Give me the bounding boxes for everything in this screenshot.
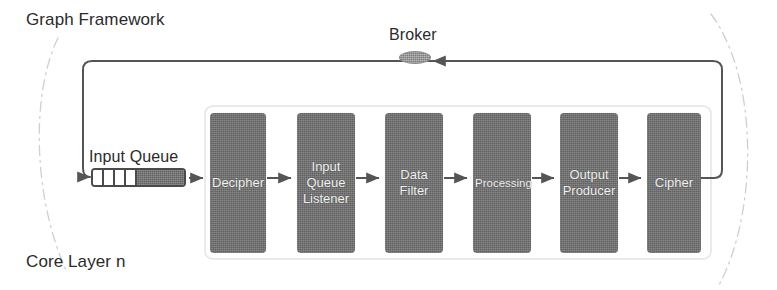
input-queue-cell [126, 170, 137, 185]
stage-label-output-producer: OutputProducer [562, 167, 616, 200]
stage-label-cipher: Cipher [649, 175, 699, 191]
stage-box-input-queue-listener[interactable]: InputQueueListener [297, 113, 355, 253]
stage-label-processing: Processing [475, 176, 529, 190]
input-queue-fill [137, 170, 184, 185]
pipeline-inner-container [205, 106, 711, 259]
stage-box-processing[interactable]: Processing [473, 113, 531, 253]
input-queue-cell [93, 170, 104, 185]
broker-node[interactable] [399, 51, 431, 64]
input-queue-cell [115, 170, 126, 185]
stage-box-decipher[interactable]: Decipher [210, 113, 266, 253]
input-queue-label: Input Queue [89, 148, 178, 166]
stage-label-decipher: Decipher [212, 175, 264, 191]
stage-box-output-producer[interactable]: OutputProducer [560, 113, 618, 253]
input-queue-widget[interactable] [91, 168, 186, 187]
core-layer-label: Core Layer n [26, 253, 125, 272]
stage-label-data-filter: DataFilter [387, 167, 441, 200]
stage-box-data-filter[interactable]: DataFilter [385, 113, 443, 253]
stage-label-input-queue-listener: InputQueueListener [299, 159, 353, 208]
page-title: Graph Framework [26, 11, 164, 30]
core-layer-boundary-arc-right [711, 14, 748, 285]
input-queue-cell [104, 170, 115, 185]
input-queue-cells [93, 170, 137, 185]
diagram-canvas: Graph Framework Core Layer n Broker Inpu… [0, 0, 777, 290]
broker-label: Broker [389, 26, 437, 44]
core-layer-boundary-arc-left [39, 38, 66, 270]
stage-box-cipher[interactable]: Cipher [647, 113, 701, 253]
